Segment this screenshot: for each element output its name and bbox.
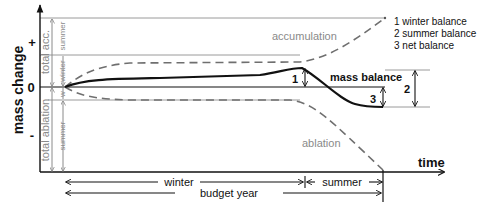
y-zero-label: 0 (27, 80, 34, 95)
budget-year-label: budget year (200, 187, 258, 199)
ablation-label: ablation (302, 137, 341, 149)
abl-summer-label: summer (58, 121, 67, 150)
legend-item-2: 2 summer balance (394, 28, 477, 39)
y-axis-label: mass change (10, 45, 26, 134)
total-ablation-label: total ablation (39, 99, 51, 161)
y-plus-label: + (28, 35, 36, 50)
mass-balance-diagram: mass change + 0 - time total acc. total … (0, 0, 488, 212)
acc-summer-label: summer (58, 21, 67, 50)
marker-3: 3 (370, 93, 376, 105)
mass-balance-label: mass balance (330, 71, 402, 83)
ablation-curve (65, 87, 383, 170)
legend-item-1: 1 winter balance (394, 16, 467, 27)
winter-period-label: winter (163, 176, 194, 188)
acc-winter-label: winter (58, 60, 67, 83)
summer-period-label: summer (322, 176, 362, 188)
accumulation-label: accumulation (272, 30, 337, 42)
y-minus-label: - (30, 128, 34, 143)
total-acc-label: total acc. (39, 30, 51, 74)
x-axis-label: time (418, 155, 445, 170)
legend-item-3: 3 net balance (394, 40, 454, 51)
marker-2: 2 (404, 83, 410, 95)
abl-w-label: w (58, 91, 67, 98)
marker-1: 1 (292, 73, 298, 85)
